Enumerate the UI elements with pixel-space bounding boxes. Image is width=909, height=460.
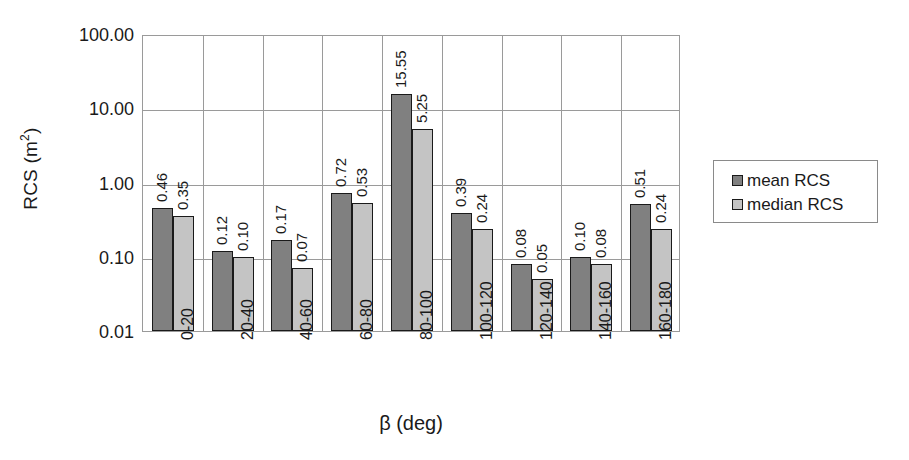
x-axis-tick-label: 160-180 [658,281,674,340]
bar-value-label: 0.05 [534,244,549,273]
bar-mean-60-80[interactable] [331,193,352,331]
bar-value-label: 0.17 [273,204,288,233]
y-axis-title-base: RCS (m [20,141,41,210]
x-axis-tick-label: 0-20 [180,308,196,340]
y-axis-tick-labels: 0.010.101.0010.00100.00 [48,0,134,460]
bar-value-label: 0.24 [474,193,489,222]
bar-mean-40-60[interactable] [271,240,292,331]
x-axis-tick-label: 100-120 [479,281,495,340]
vertical-gridline [263,36,264,331]
vertical-gridline [621,36,622,331]
vertical-gridline [203,36,204,331]
legend-swatch-mean-icon [732,175,743,186]
x-axis-tick-label: 20-40 [240,299,256,340]
bar-mean-80-100[interactable] [391,94,412,331]
vertical-gridline [382,36,383,331]
vertical-gridline [502,36,503,331]
x-axis-title: β (deg) [142,412,680,435]
legend-label-median: median RCS [747,196,843,213]
bar-value-label: 5.25 [414,94,429,123]
y-axis-tick-label: 100.00 [52,26,134,44]
x-axis-tick-label: 140-160 [598,281,614,340]
bar-value-label: 0.08 [513,229,528,258]
chart-legend: mean RCS median RCS [713,160,878,223]
bar-value-label: 0.53 [354,168,369,197]
x-axis-tick-label: 80-100 [419,290,435,340]
rcs-bar-chart: RCS (m2) 0.010.101.0010.00100.00 0.460.3… [0,0,909,460]
bar-value-label: 0.24 [653,193,668,222]
bar-mean-0-20[interactable] [152,208,173,331]
bar-value-label: 0.72 [333,158,348,187]
bar-value-label: 0.39 [453,178,468,207]
bar-mean-160-180[interactable] [630,204,651,331]
legend-item-mean-rcs[interactable]: mean RCS [732,168,877,192]
legend-item-median-rcs[interactable]: median RCS [732,192,877,216]
y-axis-title-tail: ) [20,128,41,135]
x-axis-tick-label: 60-80 [359,299,375,340]
bar-value-label: 0.10 [572,222,587,251]
vertical-gridline [322,36,323,331]
bar-mean-120-140[interactable] [511,264,532,331]
vertical-gridline [561,36,562,331]
y-axis-tick-label: 1.00 [52,175,134,193]
legend-swatch-median-icon [732,199,743,210]
x-axis-tick-label: 120-140 [539,281,555,340]
bar-mean-140-160[interactable] [570,257,591,331]
bar-value-label: 0.46 [154,172,169,201]
legend-label-mean: mean RCS [747,172,830,189]
bar-value-label: 0.07 [294,233,309,262]
y-axis-tick-label: 0.10 [52,249,134,267]
bar-value-label: 0.08 [593,229,608,258]
y-axis-tick-label: 10.00 [52,100,134,118]
x-axis-tick-label: 40-60 [299,299,315,340]
bar-value-label: 0.10 [235,222,250,251]
y-axis-tick-label: 0.01 [52,323,134,341]
bar-value-label: 15.55 [393,50,408,88]
bar-value-label: 0.12 [214,216,229,245]
y-axis-title-exponent: 2 [18,134,32,141]
bar-value-label: 0.35 [175,181,190,210]
bar-value-label: 0.51 [632,169,647,198]
vertical-gridline [442,36,443,331]
y-axis-title: RCS (m2) [18,99,41,239]
bar-mean-100-120[interactable] [451,213,472,331]
bar-mean-20-40[interactable] [212,251,233,331]
